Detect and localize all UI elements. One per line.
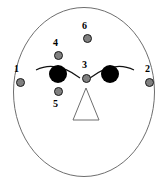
landmark-marker-6 bbox=[83, 34, 92, 43]
landmark-label-6: 6 bbox=[82, 21, 87, 31]
landmark-marker-4 bbox=[54, 51, 63, 60]
landmark-marker-3 bbox=[82, 74, 91, 83]
right-pupil bbox=[101, 65, 119, 83]
landmark-marker-5 bbox=[54, 87, 63, 96]
landmark-marker-1 bbox=[16, 78, 25, 87]
landmark-label-3: 3 bbox=[82, 60, 87, 70]
left-pupil bbox=[49, 65, 67, 83]
landmark-label-1: 1 bbox=[14, 64, 19, 74]
landmark-label-4: 4 bbox=[53, 38, 58, 48]
landmark-label-2: 2 bbox=[145, 64, 150, 74]
landmark-label-5: 5 bbox=[53, 99, 58, 109]
face-diagram: 1 2 3 4 5 6 bbox=[0, 0, 168, 180]
landmark-marker-2 bbox=[145, 78, 154, 87]
